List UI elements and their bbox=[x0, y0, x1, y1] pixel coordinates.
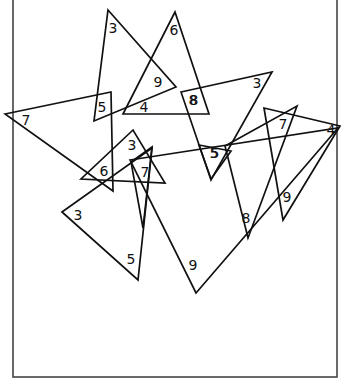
triangle-label: 5 bbox=[127, 251, 136, 267]
triangle-label: 4 bbox=[140, 99, 149, 115]
triangle-label: 8 bbox=[189, 92, 198, 108]
triangle-t8 bbox=[130, 128, 338, 293]
triangle-label: 3 bbox=[74, 207, 83, 223]
labels-layer: 395648738367359587495 bbox=[22, 20, 336, 273]
triangle-label: 5 bbox=[98, 99, 107, 115]
triangles-layer bbox=[5, 10, 340, 293]
triangle-label: 3 bbox=[109, 20, 118, 36]
triangle-label: 6 bbox=[170, 22, 179, 38]
triangle-label: 8 bbox=[242, 210, 251, 226]
triangle-label: 4 bbox=[327, 122, 336, 138]
triangle-label: 6 bbox=[100, 163, 109, 179]
triangle-label: 7 bbox=[22, 112, 31, 128]
triangle-diagram: 395648738367359587495 bbox=[0, 0, 342, 384]
triangle-label: 9 bbox=[154, 74, 163, 90]
triangle-label: 5 bbox=[211, 145, 220, 161]
triangle-label: 3 bbox=[253, 75, 262, 91]
triangle-label: 7 bbox=[141, 164, 150, 180]
triangle-label: 9 bbox=[283, 189, 292, 205]
triangle-label: 3 bbox=[128, 137, 137, 153]
triangle-label: 9 bbox=[189, 257, 198, 273]
triangle-label: 7 bbox=[279, 116, 288, 132]
